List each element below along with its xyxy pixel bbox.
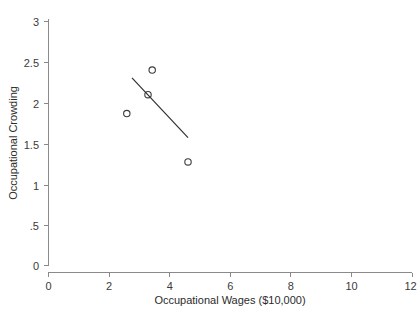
plot-background bbox=[0, 0, 418, 314]
y-tick-label-3: 3 bbox=[33, 16, 39, 28]
x-tick-label-10: 10 bbox=[345, 280, 357, 292]
x-tick-label-2: 2 bbox=[106, 280, 112, 292]
x-tick-label-0: 0 bbox=[45, 280, 51, 292]
x-axis-title: Occupational Wages ($10,000) bbox=[154, 294, 305, 306]
scatter-plot: 3 2.5 2 1.5 1 .5 bbox=[0, 0, 418, 314]
chart-screenshot: 3 2.5 2 1.5 1 .5 bbox=[0, 0, 418, 314]
y-tick-label-0: 0 bbox=[33, 260, 39, 272]
y-tick-label-0_5: .5 bbox=[30, 220, 39, 232]
y-tick-label-1: 1 bbox=[33, 180, 39, 192]
x-tick-label-12: 12 bbox=[404, 280, 416, 292]
x-tick-label-6: 6 bbox=[227, 280, 233, 292]
x-tick-label-8: 8 bbox=[288, 280, 294, 292]
clipped-title-text bbox=[90, 0, 330, 6]
y-tick-label-2: 2 bbox=[33, 98, 39, 110]
y-tick-label-1_5: 1.5 bbox=[24, 139, 39, 151]
y-axis-title: Occupational Crowding bbox=[7, 86, 19, 200]
y-tick-label-2_5: 2.5 bbox=[24, 57, 39, 69]
x-tick-label-4: 4 bbox=[167, 280, 173, 292]
